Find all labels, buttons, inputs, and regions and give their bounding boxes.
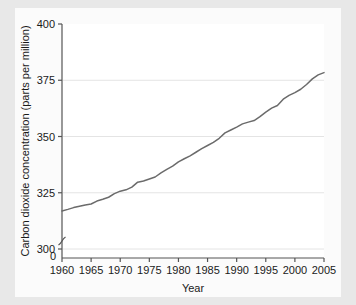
y-tick-label-325: 325 — [37, 187, 55, 199]
y-tick-label-400: 400 — [37, 18, 55, 30]
x-tick-label-1995: 1995 — [254, 264, 278, 276]
x-axis-ticks-group — [62, 258, 324, 262]
y-tick-label-375: 375 — [37, 74, 55, 86]
y-axis-tick-labels-group: 300325350375400 — [37, 18, 55, 255]
plot-area-background — [62, 24, 324, 258]
figure-container: 300325350375400 196019651970197519801985… — [0, 0, 356, 305]
x-tick-label-1990: 1990 — [224, 264, 248, 276]
x-tick-label-2005: 2005 — [312, 264, 336, 276]
x-tick-label-1965: 1965 — [79, 264, 103, 276]
x-tick-label-2000: 2000 — [283, 264, 307, 276]
y-axis-title: Carbon dioxide concentration (parts per … — [19, 25, 31, 256]
y-tick-label-350: 350 — [37, 131, 55, 143]
x-tick-label-1985: 1985 — [195, 264, 219, 276]
co2-line-chart: 300325350375400 196019651970197519801985… — [15, 8, 341, 297]
x-tick-label-1980: 1980 — [166, 264, 190, 276]
x-tick-label-1970: 1970 — [108, 264, 132, 276]
x-axis-title: Year — [182, 282, 205, 294]
y-axis-origin-label: 0 — [50, 250, 56, 262]
figure-panel: 300325350375400 196019651970197519801985… — [15, 8, 341, 297]
x-tick-label-1960: 1960 — [50, 264, 74, 276]
x-axis-tick-labels-group: 1960196519701975198019851990199520002005 — [50, 264, 336, 276]
x-tick-label-1975: 1975 — [137, 264, 161, 276]
